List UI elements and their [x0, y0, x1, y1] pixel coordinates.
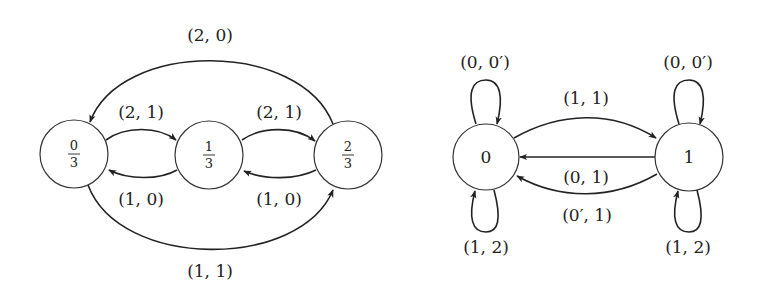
edge-label-1-top: (0, 0′): [663, 52, 713, 72]
edge-0-to-1: [514, 118, 656, 138]
state-node-2-3: 2 3: [314, 121, 382, 189]
edge-label-0-top: (0, 0′): [460, 52, 510, 72]
edge-label-2-0: (2, 0): [187, 25, 233, 45]
state-denominator: 3: [70, 155, 78, 170]
state-denominator: 3: [205, 156, 213, 171]
self-loop-0-bottom: [472, 190, 499, 232]
edge-label-1-0-a: (1, 0): [118, 189, 164, 209]
state-node-1-3: 1 3: [175, 121, 243, 189]
self-loop-0-top: [471, 80, 500, 124]
edge-label-0-bottom: (1, 2): [463, 237, 509, 257]
self-loop-1-bottom: [675, 190, 702, 232]
edge-label-2-1-b: (2, 1): [256, 102, 302, 122]
edge-1-3-to-2-3: [242, 130, 315, 141]
edge-label-1-bottom: (1, 2): [665, 237, 711, 257]
state-label: 0: [481, 147, 492, 167]
state-label: 1: [684, 147, 695, 167]
state-node-1: 1: [655, 123, 723, 191]
edge-1-3-to-0-3: [109, 170, 177, 178]
edge-2-3-to-1-3: [244, 170, 316, 178]
edge-label-0p-1: (0′, 1): [562, 205, 612, 225]
state-numerator: 2: [344, 139, 352, 154]
state-numerator: 1: [205, 139, 213, 154]
state-node-0: 0: [453, 124, 519, 190]
edge-label-0-1: (0, 1): [563, 167, 609, 187]
left-automaton: (2, 0) (1, 1) (2, 1) (1, 0) (2, 1) (1, 0…: [40, 25, 382, 281]
right-automaton: (0, 0′) (1, 2) (0, 0′) (1, 2) (1, 1) (0,…: [453, 52, 723, 257]
edge-label-1-0-b: (1, 0): [256, 189, 302, 209]
edge-label-2-1-a: (2, 1): [118, 102, 164, 122]
state-denominator: 3: [344, 156, 352, 171]
edge-0-3-to-1-3: [106, 130, 176, 141]
edge-label-1-1: (1, 1): [187, 261, 233, 281]
self-loop-1-top: [674, 80, 703, 124]
state-node-0-3: 0 3: [40, 120, 108, 188]
automata-diagram: (2, 0) (1, 1) (2, 1) (1, 0) (2, 1) (1, 0…: [0, 0, 758, 290]
edge-label-1-1: (1, 1): [563, 88, 609, 108]
state-numerator: 0: [70, 138, 78, 153]
